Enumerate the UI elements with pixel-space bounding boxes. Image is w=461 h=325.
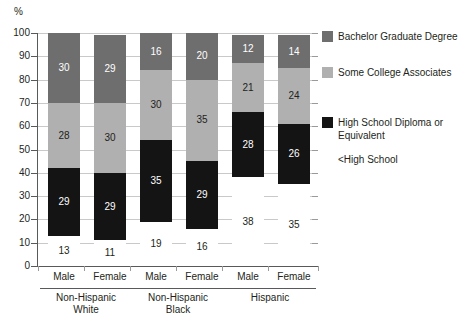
group-rule <box>224 288 316 289</box>
gridline <box>38 103 318 104</box>
bar-segment-value: 12 <box>232 44 264 54</box>
y-axis-tick-right <box>312 219 318 220</box>
y-axis-tick-label: 70 <box>0 98 30 108</box>
y-axis-tick-label: 30 <box>0 191 30 201</box>
stacked-bar[interactable]: 11293029 <box>94 33 126 266</box>
group-label-line: Black <box>118 304 238 316</box>
gridline <box>38 33 318 34</box>
y-axis-tick-right <box>312 80 318 81</box>
stacked-bar-chart: % 0102030405060708090100 132928301129302… <box>0 0 461 325</box>
bar-segment-value: 19 <box>140 239 172 249</box>
bar-segment-value: 38 <box>232 217 264 227</box>
bar-segment-value: 24 <box>278 91 310 101</box>
y-axis-tick-label: 0 <box>0 261 30 271</box>
y-axis-tick-right <box>312 103 318 104</box>
y-axis-tick-right <box>312 243 318 244</box>
legend-label: High School Diploma or Equivalent <box>338 116 461 142</box>
stacked-bar[interactable]: 16293520 <box>186 33 218 266</box>
gridline <box>38 173 318 174</box>
x-axis-line <box>37 266 319 267</box>
bar-segment-value: 30 <box>48 63 80 73</box>
bar-segment-value: 13 <box>48 246 80 256</box>
gridline <box>38 150 318 151</box>
legend-item[interactable]: Bachelor Graduate Degree <box>322 30 458 43</box>
y-axis-tick-label: 100 <box>0 28 30 38</box>
stacked-bar[interactable]: 19353016 <box>140 33 172 266</box>
y-axis-unit-label: % <box>14 6 23 17</box>
bar-segment-value: 35 <box>278 220 310 230</box>
bar-segment-value: 16 <box>140 47 172 57</box>
stacked-bar[interactable]: 13292830 <box>48 33 80 266</box>
gridline <box>38 56 318 57</box>
bar-segment-value: 29 <box>186 190 218 200</box>
group-label-line: Hispanic <box>210 292 330 304</box>
x-axis-category-label: Female <box>266 271 322 283</box>
y-axis-tick-right <box>312 150 318 151</box>
y-axis-tick-label: 50 <box>0 145 30 155</box>
bar-segment-value: 29 <box>94 64 126 74</box>
gridline <box>38 219 318 220</box>
legend-item[interactable]: Some College Associates <box>322 66 451 79</box>
y-axis-line <box>37 33 38 267</box>
y-axis-tick-right <box>312 126 318 127</box>
legend-swatch <box>322 67 333 78</box>
group-label: Hispanic <box>210 292 330 304</box>
legend-label: <High School <box>338 153 398 166</box>
legend-swatch <box>322 117 333 128</box>
bar-segment-value: 20 <box>186 51 218 61</box>
bar-segment-value: 11 <box>94 248 126 258</box>
bar-segment-value: 28 <box>48 131 80 141</box>
bar-segment-value: 30 <box>94 133 126 143</box>
legend-label: Bachelor Graduate Degree <box>338 30 458 43</box>
y-axis-tick-label: 90 <box>0 51 30 61</box>
y-axis-tick-label: 10 <box>0 238 30 248</box>
legend-swatch <box>322 31 333 42</box>
gridline <box>38 80 318 81</box>
y-axis-tick-right <box>312 33 318 34</box>
y-axis-tick-label: 20 <box>0 214 30 224</box>
stacked-bar[interactable]: 38282112 <box>232 33 264 266</box>
legend-label: Some College Associates <box>338 66 451 79</box>
bar-segment-value: 35 <box>186 115 218 125</box>
gridline <box>38 243 318 244</box>
legend-item[interactable]: <High School <box>322 153 398 166</box>
y-axis-tick-right <box>312 196 318 197</box>
gridline <box>38 196 318 197</box>
bar-segment-value: 28 <box>232 140 264 150</box>
legend-swatch <box>322 154 333 165</box>
bar-segment-value: 16 <box>186 242 218 252</box>
bar-segment-value: 26 <box>278 149 310 159</box>
bar-segment-value: 35 <box>140 176 172 186</box>
y-axis-tick-label: 60 <box>0 121 30 131</box>
stacked-bar[interactable]: 35262414 <box>278 33 310 266</box>
y-axis-tick-label: 40 <box>0 168 30 178</box>
gridline <box>38 126 318 127</box>
bar-segment-value: 29 <box>48 197 80 207</box>
group-rule <box>40 288 132 289</box>
bar-segment-value: 30 <box>140 100 172 110</box>
bar-segment-value: 14 <box>278 47 310 57</box>
y-axis-tick-right <box>312 56 318 57</box>
group-rule <box>132 288 224 289</box>
bar-segment-value: 21 <box>232 83 264 93</box>
y-axis-tick-right <box>312 173 318 174</box>
bar-segment-value: 29 <box>94 202 126 212</box>
y-axis-tick-label: 80 <box>0 75 30 85</box>
legend-item[interactable]: High School Diploma or Equivalent <box>322 116 461 142</box>
